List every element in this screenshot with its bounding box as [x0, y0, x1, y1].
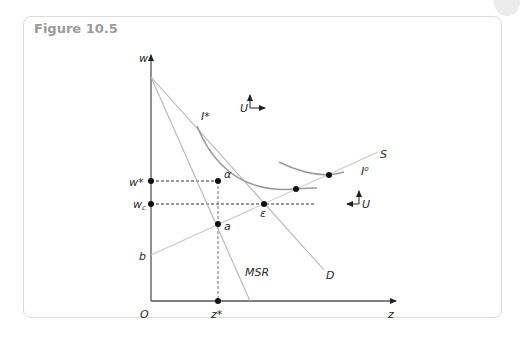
- point-I-star-S: [293, 186, 299, 192]
- S-label: S: [380, 148, 387, 161]
- demand-line-D: [151, 77, 324, 270]
- indifference-curve-I-zero: [279, 162, 344, 175]
- wc-label: wc: [133, 198, 146, 212]
- point-w-star: [148, 178, 154, 184]
- utility-arrow-icon-top: [250, 95, 265, 108]
- point-I-zero-S: [326, 172, 332, 178]
- U-label-top: U: [240, 102, 248, 115]
- U-label-right: U: [362, 198, 370, 211]
- b-label: b: [139, 250, 146, 263]
- w-star-label: w*: [129, 176, 144, 189]
- point-alpha: [215, 178, 221, 184]
- w-axis-label: w: [139, 52, 148, 65]
- origin-label: O: [140, 308, 149, 321]
- z-star-label: z*: [210, 308, 223, 321]
- I-zero-label: I⁰: [361, 165, 369, 178]
- D-label: D: [326, 269, 334, 282]
- a-label: a: [224, 220, 231, 233]
- I-star-label: I*: [201, 110, 210, 123]
- point-z-star: [215, 298, 221, 304]
- indifference-curve-I-star: [197, 126, 317, 189]
- wc-label-sub: c: [142, 204, 146, 212]
- point-wc: [148, 201, 154, 207]
- z-axis-label: z: [387, 308, 394, 321]
- utility-arrow-icon-right: [347, 191, 359, 204]
- epsilon-label: ε: [260, 207, 266, 220]
- wc-label-main: w: [133, 198, 142, 211]
- economic-diagram: w z O w* wc b z* α ε a I* I⁰ S D MSR U U: [0, 0, 524, 337]
- MSR-label: MSR: [245, 266, 269, 279]
- alpha-label: α: [224, 168, 232, 181]
- point-a: [215, 221, 221, 227]
